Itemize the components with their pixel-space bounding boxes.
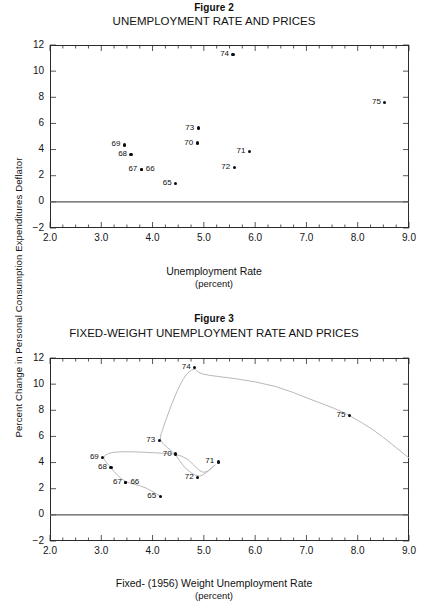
- x-tick-label: 5.0: [189, 545, 219, 556]
- x-tick-label: 6.0: [240, 232, 270, 243]
- data-point-label: 75: [335, 410, 346, 419]
- data-point: [197, 126, 200, 129]
- figure2-x-axis-title: Unemployment Rate: [0, 265, 428, 277]
- data-point-label: 74: [218, 49, 229, 58]
- figure2-title: UNEMPLOYMENT RATE AND PRICES: [0, 15, 428, 27]
- data-point-label: 72: [183, 472, 194, 481]
- x-tick-label: 2.0: [35, 232, 65, 243]
- y-tick-label: 8: [18, 91, 44, 102]
- x-tick-label: 6.0: [240, 545, 270, 556]
- data-point-label: 71: [235, 146, 246, 155]
- data-point: [159, 495, 162, 498]
- data-point: [174, 452, 177, 455]
- data-point-label: 65: [145, 491, 156, 500]
- data-point-label: 69: [109, 139, 120, 148]
- y-tick-label: 0: [18, 508, 44, 519]
- y-tick-label: 12: [18, 39, 44, 50]
- y-axis-label: Percent Change in Personal Consumption E…: [13, 112, 24, 484]
- data-point-label: 75: [370, 97, 381, 106]
- data-point: [123, 143, 126, 146]
- y-tick-label: 2: [18, 482, 44, 493]
- y-tick-label: 8: [18, 404, 44, 415]
- data-point-label: 74: [180, 362, 191, 371]
- figure2-x-axis-units: (percent): [0, 278, 428, 289]
- y-tick-label: 10: [18, 65, 44, 76]
- figure3-x-axis-units: (percent): [0, 590, 428, 601]
- figure3-number: Figure 3: [0, 313, 428, 324]
- figure2-plot: 6566676869707172737475: [50, 45, 409, 228]
- figure3-title: FIXED-WEIGHT UNEMPLOYMENT RATE AND PRICE…: [0, 327, 428, 339]
- data-point-label: 67: [111, 477, 122, 486]
- x-tick-label: 8.0: [343, 545, 373, 556]
- x-tick-label: 4.0: [138, 232, 168, 243]
- y-tick-label: 6: [18, 117, 44, 128]
- y-tick-label: 0: [18, 195, 44, 206]
- x-tick-label: 9.0: [394, 232, 424, 243]
- figure2-canvas: [50, 45, 409, 228]
- data-point-label: 66: [146, 164, 155, 173]
- data-point-label: 66: [130, 477, 139, 486]
- data-point-label: 65: [161, 178, 172, 187]
- y-tick-label: 10: [18, 378, 44, 389]
- data-point-label: 73: [144, 435, 155, 444]
- y-tick-label: 4: [18, 143, 44, 154]
- data-point: [196, 141, 199, 144]
- data-point-label: 68: [96, 462, 107, 471]
- data-point-label: 69: [88, 452, 99, 461]
- x-tick-label: 2.0: [35, 545, 65, 556]
- data-point-label: 67: [126, 164, 137, 173]
- data-point-label: 72: [219, 162, 230, 171]
- data-point-label: 70: [182, 138, 193, 147]
- y-tick-label: −2: [18, 535, 44, 546]
- y-tick-label: 4: [18, 456, 44, 467]
- x-tick-label: 7.0: [291, 545, 321, 556]
- x-tick-label: 3.0: [86, 232, 116, 243]
- data-point: [217, 460, 220, 463]
- y-tick-label: 12: [18, 352, 44, 363]
- figure3-canvas: [50, 358, 409, 541]
- x-tick-label: 3.0: [86, 545, 116, 556]
- data-point-label: 68: [116, 149, 127, 158]
- connecting-trace: [104, 369, 409, 496]
- data-point-label: 71: [203, 456, 214, 465]
- figure3-x-axis-title: Fixed- (1956) Weight Unemployment Rate: [0, 577, 428, 589]
- figure3-plot: 6566676869707172737475: [50, 358, 409, 541]
- data-point-label: 70: [161, 449, 172, 458]
- y-tick-label: −2: [18, 222, 44, 233]
- x-tick-label: 8.0: [343, 232, 373, 243]
- x-tick-label: 5.0: [189, 232, 219, 243]
- figures-page: Percent Change in Personal Consumption E…: [0, 0, 428, 612]
- x-tick-label: 9.0: [394, 545, 424, 556]
- x-tick-label: 7.0: [291, 232, 321, 243]
- figure2-number: Figure 2: [0, 2, 428, 13]
- data-point: [193, 366, 196, 369]
- data-point: [231, 53, 234, 56]
- y-tick-label: 6: [18, 430, 44, 441]
- y-tick-label: 2: [18, 169, 44, 180]
- data-point: [140, 168, 143, 171]
- data-point-label: 73: [183, 123, 194, 132]
- data-point: [158, 439, 161, 442]
- x-tick-label: 4.0: [138, 545, 168, 556]
